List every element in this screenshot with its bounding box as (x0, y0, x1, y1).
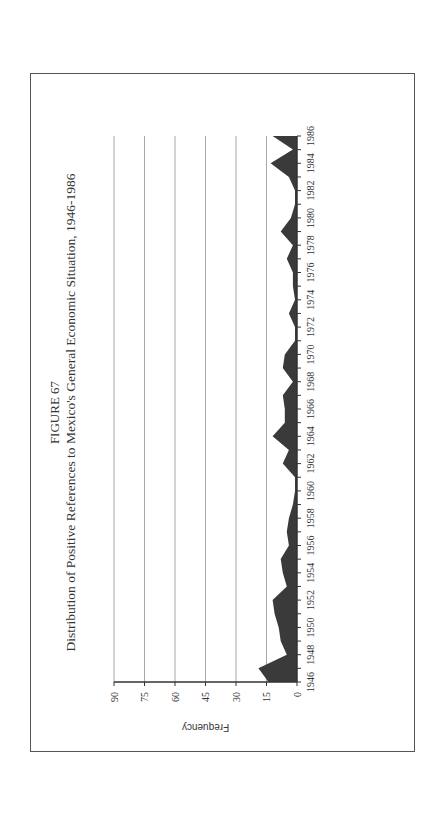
y-tick-label: 45 (200, 692, 211, 702)
x-tick-label: 1970 (305, 344, 316, 364)
y-tick-label: 60 (170, 692, 181, 702)
y-tick-label: 75 (139, 692, 150, 702)
x-tick-label: 1966 (305, 399, 316, 419)
x-tick-label: 1946 (305, 672, 316, 692)
x-tick-label: 1948 (305, 645, 316, 665)
x-tick-label: 1968 (305, 372, 316, 392)
x-tick-label: 1978 (305, 235, 316, 255)
x-tick-label: 1954 (305, 563, 316, 583)
x-tick-label: 1960 (305, 481, 316, 501)
figure-page: FIGURE 67 Distribution of Positive Refer… (30, 73, 415, 752)
x-tick-label: 1956 (305, 536, 316, 556)
x-axis-ticks: 1946194819501952195419561958196019621964… (297, 126, 316, 692)
x-tick-label: 1964 (305, 426, 316, 446)
frequency-area (258, 136, 297, 682)
x-tick-label: 1974 (305, 290, 316, 310)
x-tick-label: 1976 (305, 263, 316, 283)
x-tick-label: 1982 (305, 181, 316, 201)
x-tick-label: 1984 (305, 153, 316, 173)
x-tick-label: 1980 (305, 208, 316, 228)
y-tick-label: 30 (231, 692, 242, 702)
y-tick-label: 15 (261, 692, 272, 702)
area-chart: 0153045607590 19461948195019521954195619… (31, 72, 416, 751)
y-axis-ticks: 0153045607590 (109, 682, 303, 702)
y-axis-label: Frequency (182, 722, 229, 733)
gridlines (114, 136, 267, 682)
x-tick-label: 1958 (305, 508, 316, 528)
x-tick-label: 1972 (305, 317, 316, 337)
y-tick-label: 90 (109, 692, 120, 702)
x-tick-label: 1952 (305, 590, 316, 610)
x-tick-label: 1962 (305, 454, 316, 474)
x-tick-label: 1950 (305, 617, 316, 637)
x-tick-label: 1986 (305, 126, 316, 146)
y-tick-label: 0 (292, 692, 303, 697)
